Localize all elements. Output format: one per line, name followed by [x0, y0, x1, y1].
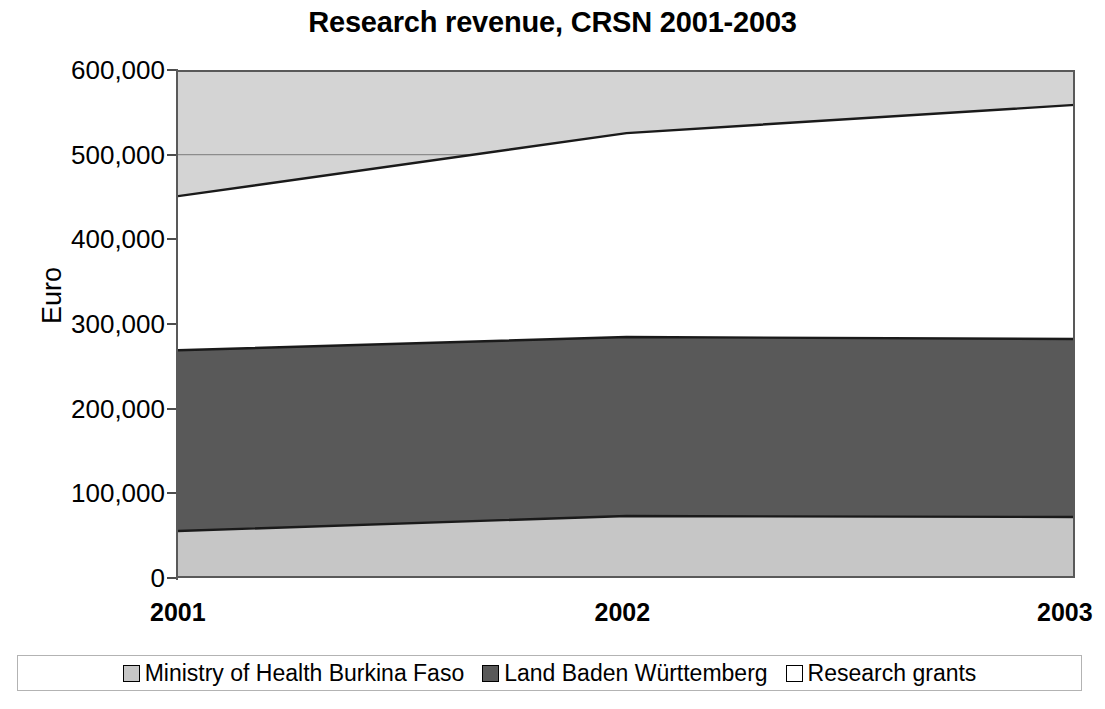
y-axis-tick-label: 600,000	[5, 57, 165, 83]
x-axis-tick-labels: 200120022003	[0, 598, 1105, 638]
legend-swatch-icon	[786, 665, 803, 682]
chart-legend: Ministry of Health Burkina FasoLand Bade…	[17, 655, 1082, 691]
plot-area	[178, 70, 1075, 578]
legend-entry: Land Baden Württemberg	[473, 662, 776, 685]
legend-entry: Ministry of Health Burkina Faso	[114, 662, 474, 685]
legend-swatch-icon	[482, 665, 499, 682]
x-axis-tick-label: 2002	[595, 598, 651, 627]
x-axis-tick-label: 2003	[1037, 598, 1093, 627]
stacked-area-plot	[178, 70, 1075, 578]
x-axis-tick-label: 2001	[150, 598, 206, 627]
chart-figure: Research revenue, CRSN 2001-2003 Euro 60…	[0, 0, 1105, 709]
legend-label: Ministry of Health Burkina Faso	[145, 662, 465, 685]
y-axis-tick-label: 300,000	[5, 311, 165, 337]
y-axis-tick-label: 500,000	[5, 142, 165, 168]
y-axis-tick-label: 200,000	[5, 396, 165, 422]
legend-entry: Research grants	[777, 662, 986, 685]
legend-label: Research grants	[808, 662, 977, 685]
legend-swatch-icon	[123, 665, 140, 682]
y-axis-tick-label: 0	[5, 565, 165, 591]
chart-title: Research revenue, CRSN 2001-2003	[0, 6, 1105, 39]
legend-label: Land Baden Württemberg	[504, 662, 767, 685]
y-axis-tick-label: 400,000	[5, 226, 165, 252]
y-axis-tick-label: 100,000	[5, 480, 165, 506]
